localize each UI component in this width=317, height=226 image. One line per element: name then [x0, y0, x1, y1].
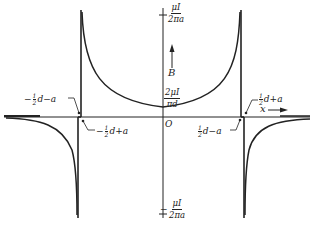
- top-value-label: μI 2πa: [168, 3, 184, 23]
- leader-dot: [78, 112, 81, 115]
- leader-left-outer: [68, 98, 79, 113]
- left-inner-label: −12d+a: [96, 125, 128, 138]
- center-value-label: 2μI πd: [164, 88, 180, 108]
- center-field-curve: [82, 12, 240, 107]
- top-value-den: 2πa: [168, 14, 184, 24]
- half-den: 2: [198, 132, 202, 138]
- left-outer-label: −12d−a: [24, 93, 56, 106]
- top-value-num: μI: [171, 3, 182, 14]
- left-field-curve: [6, 118, 77, 215]
- bottom-value-den: 2πa: [169, 210, 185, 220]
- right-inner-half: 12: [198, 125, 202, 138]
- x-arrow-icon: [280, 108, 288, 113]
- bottom-value-sign: −: [160, 204, 168, 214]
- leader-dot: [245, 112, 248, 115]
- origin-label: O: [165, 120, 172, 129]
- field-diagram: [0, 0, 317, 226]
- leader-left-inner: [83, 121, 95, 130]
- left-inner-half: 12: [105, 125, 109, 138]
- leader-dot: [239, 119, 242, 122]
- left-outer-half: 12: [33, 93, 37, 106]
- bottom-value-label: μI 2πa: [169, 199, 185, 219]
- bottom-value-num: μI: [172, 199, 183, 210]
- half-den: 2: [259, 100, 263, 106]
- left-inner-prefix: −: [96, 126, 104, 136]
- b-axis-label: B: [168, 68, 175, 78]
- left-outer-rest: d−a: [37, 94, 56, 104]
- right-outer-label: 12d+a: [258, 93, 283, 106]
- right-outer-half: 12: [259, 93, 263, 106]
- leader-dot: [82, 120, 85, 123]
- center-value-num: 2μI: [164, 88, 180, 99]
- left-inner-rest: d+a: [109, 126, 128, 136]
- right-field-curve: [245, 119, 310, 215]
- left-outer-prefix: −: [24, 94, 32, 104]
- half-den: 2: [33, 100, 37, 106]
- half-den: 2: [105, 132, 109, 138]
- leader-right-inner: [230, 120, 240, 130]
- right-outer-rest: d+a: [264, 94, 283, 104]
- b-arrow-icon: [170, 44, 175, 52]
- leader-right-outer: [246, 100, 258, 113]
- center-value-den: πd: [167, 99, 178, 109]
- right-inner-label: 12d−a: [197, 125, 222, 138]
- right-inner-rest: d−a: [203, 126, 222, 136]
